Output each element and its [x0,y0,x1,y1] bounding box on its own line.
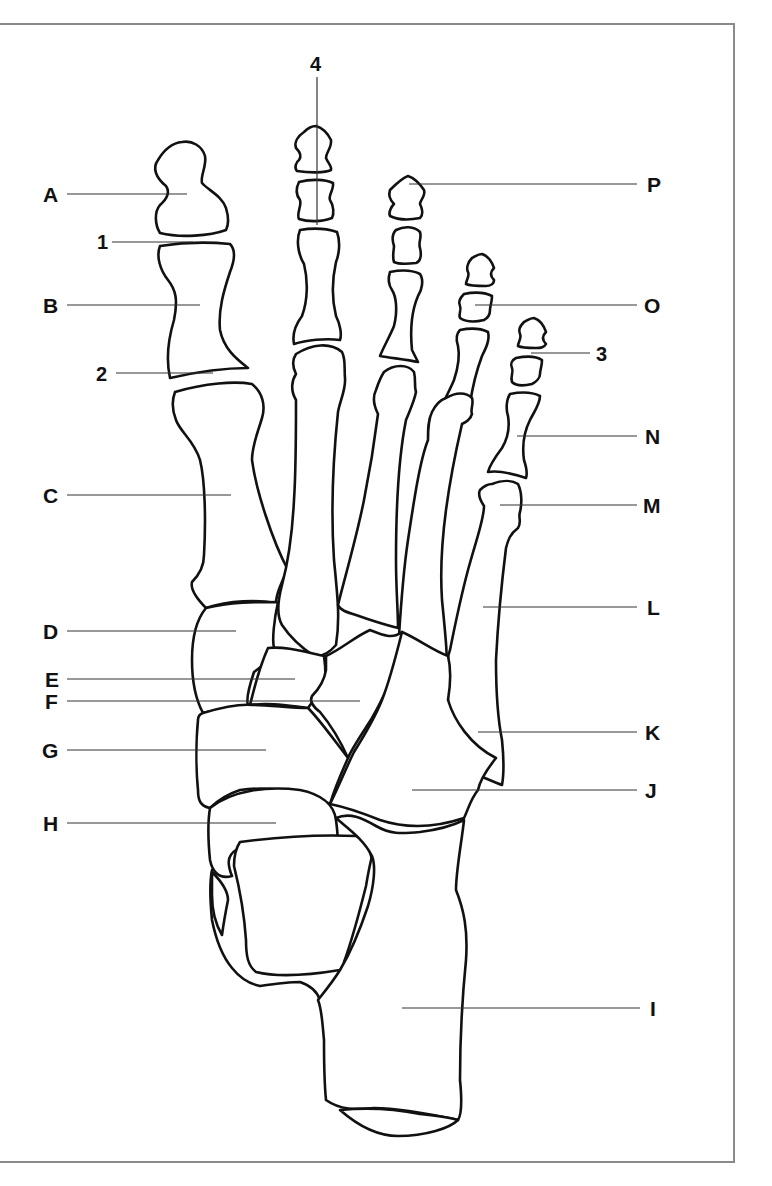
bone-fourth-toe-middle-phalanx [459,293,492,322]
label-I: I [650,997,656,1020]
label-M: M [643,494,661,517]
bone-third-toe-middle-phalanx [393,227,421,263]
label-L: L [647,596,660,619]
label-E: E [45,668,59,691]
bone-third-toe-distal-phalanx [389,176,424,219]
label-4: 4 [310,53,322,75]
label-H: H [43,812,58,835]
bone-second-toe-proximal-phalanx [293,229,340,344]
bone-fifth-toe-middle-phalanx [511,357,542,386]
bone-fourth-toe-distal-phalanx [466,254,494,286]
foot-bones-diagram: A 1 B 2 C D E F G H 4 P O 3 N M L K J I [0,0,772,1186]
label-C: C [43,484,58,507]
bone-third-toe-proximal-phalanx [380,271,422,362]
label-N: N [645,425,660,448]
label-J: J [645,779,657,802]
label-A: A [43,183,58,206]
label-3: 3 [596,343,607,365]
label-O: O [644,294,660,317]
label-D: D [43,620,58,643]
bone-great-toe-distal-phalanx [155,142,228,236]
bone-fifth-toe-distal-phalanx [518,318,546,348]
label-K: K [645,721,660,744]
bone-great-toe-proximal-phalanx [158,243,248,378]
bone-fifth-toe-proximal-phalanx [488,393,540,478]
label-B: B [43,294,58,317]
label-P: P [647,173,661,196]
bone-second-metatarsal [278,345,345,656]
bone-second-toe-middle-phalanx [297,180,333,221]
label-G: G [42,739,58,762]
bone-second-toe-distal-phalanx [295,126,331,172]
label-2: 2 [96,363,107,385]
label-1: 1 [97,231,108,253]
label-F: F [45,690,58,713]
